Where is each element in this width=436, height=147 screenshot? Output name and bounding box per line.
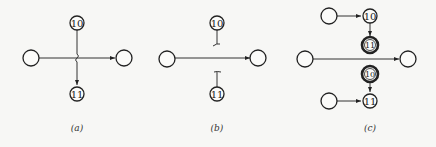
edge-11-stub — [214, 72, 221, 88]
network-diagram: 10 11 (a) 10 11 (b) 10 11 10 — [0, 0, 436, 147]
node-right — [250, 50, 266, 66]
node-top-left — [321, 8, 337, 24]
node-10-label: 10 — [211, 18, 224, 29]
node-11-label: 11 — [211, 89, 224, 100]
node-right — [400, 51, 416, 67]
node-left — [23, 50, 39, 66]
node-11-label: 11 — [364, 96, 377, 107]
node-right — [116, 50, 132, 66]
node-left — [297, 51, 313, 67]
panel-c: 10 11 10 11 (c) — [297, 8, 416, 133]
node-11-label: 11 — [365, 41, 375, 50]
panel-a: 10 11 (a) — [23, 16, 132, 133]
node-10-label: 10 — [364, 11, 377, 22]
caption-c: (c) — [364, 123, 377, 133]
node-11-label: 11 — [71, 89, 84, 100]
edge-10-stub — [213, 30, 220, 46]
caption-b: (b) — [211, 123, 224, 133]
node-left — [159, 51, 175, 67]
node-bottom-left — [321, 93, 337, 109]
panel-b: 10 11 (b) — [159, 16, 266, 133]
node-10-label: 10 — [71, 18, 84, 29]
caption-a: (a) — [71, 123, 84, 133]
node-10-label: 10 — [365, 70, 375, 79]
